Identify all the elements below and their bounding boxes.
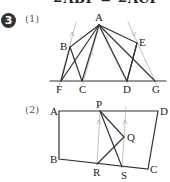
point-label-d: D [160,105,168,117]
point-label-q: Q [127,131,135,143]
segment-af [61,25,99,81]
segment-ag [99,25,155,81]
point-label-b: B [50,153,57,165]
point-label-a: A [95,11,103,23]
parallel-line-through-e [128,22,158,88]
segment-ad [99,25,127,81]
figure-2 [59,107,158,169]
segment-pq [100,111,124,137]
point-label-b: B [60,40,67,52]
point-label-r: R [93,166,101,178]
point-label-s: S [121,169,127,181]
point-label-c: C [79,83,86,95]
point-label-e: E [139,36,146,48]
segment-ac [82,25,99,81]
point-label-f: F [56,83,62,95]
point-label-d: D [123,83,131,95]
point-label-c: C [150,163,157,175]
geometry-figures: A B E F C D G A P D Q B R S C [0,0,170,182]
figure-1 [50,22,166,90]
point-label-a: A [50,105,58,117]
point-label-g: G [152,83,160,95]
segment-ps [100,111,122,167]
parallel-arrow-mark [132,32,136,36]
parallel-line-rp [97,111,100,164]
segment-qr [97,137,124,164]
point-label-p: P [96,98,102,110]
